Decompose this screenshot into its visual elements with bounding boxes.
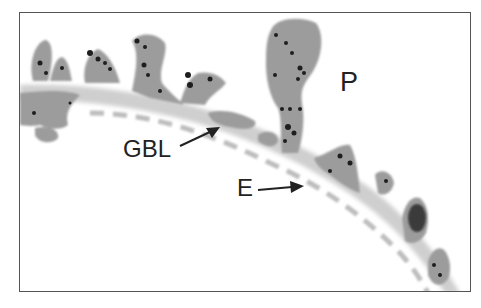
label-p: P xyxy=(340,69,358,96)
micrograph-frame xyxy=(19,12,471,292)
micrograph-image xyxy=(20,13,471,292)
podocyte-processes xyxy=(20,19,450,285)
arrow-e-icon xyxy=(256,180,306,196)
dark-cell xyxy=(408,204,426,232)
arrow-gbl-icon xyxy=(178,124,223,150)
label-gbl: GBL xyxy=(123,137,171,161)
label-e: E xyxy=(237,176,253,200)
